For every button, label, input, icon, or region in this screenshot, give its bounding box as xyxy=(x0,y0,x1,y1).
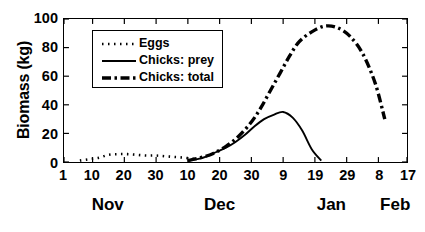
legend-item[interactable]: Eggs xyxy=(93,35,222,52)
y-tick-label: 80 xyxy=(14,40,58,55)
legend-item[interactable]: Chicks: prey xyxy=(93,52,222,69)
legend-line-swatch xyxy=(100,55,138,67)
legend-label: Eggs xyxy=(139,37,170,50)
y-tick-label: 60 xyxy=(14,69,58,84)
series-line-eggs xyxy=(80,154,194,161)
month-label: Nov xyxy=(68,196,148,213)
month-label: Dec xyxy=(180,196,260,213)
chart-legend: EggsChicks: preyChicks: total xyxy=(92,30,223,88)
y-tick-label: 100 xyxy=(14,11,58,26)
x-tick-label: 17 xyxy=(388,168,425,183)
chart-figure: Biomass (kg) 020406080100 11020301020309… xyxy=(0,0,425,232)
x-axis-tick-labels: 110203010203091929817 xyxy=(0,168,425,188)
legend-label: Chicks: prey xyxy=(139,54,214,67)
y-tick-label: 40 xyxy=(14,98,58,113)
x-axis-month-labels: NovDecJanFeb xyxy=(0,196,425,222)
legend-line-swatch xyxy=(100,38,138,50)
legend-line-swatch xyxy=(100,72,138,84)
y-tick-label: 20 xyxy=(14,127,58,142)
legend-label: Chicks: total xyxy=(139,71,214,84)
month-label: Feb xyxy=(355,196,425,213)
legend-item[interactable]: Chicks: total xyxy=(93,69,222,86)
